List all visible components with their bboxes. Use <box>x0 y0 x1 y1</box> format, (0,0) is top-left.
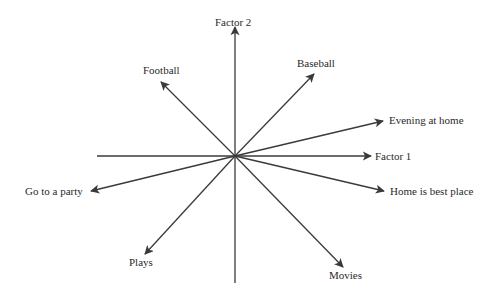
label-football: Football <box>143 65 180 76</box>
vector-go-to-a-party <box>91 156 235 191</box>
vector-evening-at-home <box>235 121 383 156</box>
factor2-axis-label: Factor 2 <box>215 17 251 28</box>
vector-home-is-best-place <box>235 156 384 191</box>
vector-baseball <box>235 74 314 156</box>
factor1-axis-label: Factor 1 <box>375 151 411 162</box>
label-baseball: Baseball <box>297 58 335 69</box>
factor-vector-diagram: Factor 2 Factor 1 Football Baseball Even… <box>0 0 499 296</box>
diagram-canvas <box>0 0 499 296</box>
vector-plays <box>145 156 235 254</box>
label-plays: Plays <box>129 257 153 268</box>
label-go-to-a-party: Go to a party <box>25 186 83 197</box>
label-home-is-best-place: Home is best place <box>390 186 473 197</box>
vector-football <box>161 82 235 156</box>
label-evening-at-home: Evening at home <box>389 115 464 126</box>
vector-movies <box>235 156 343 267</box>
label-movies: Movies <box>329 270 362 281</box>
